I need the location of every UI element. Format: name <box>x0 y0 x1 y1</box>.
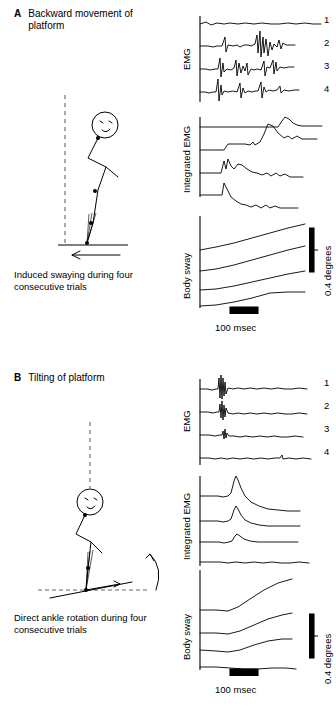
panel-a-body-sway-chart <box>183 212 336 317</box>
panel-b-letter: B <box>14 372 21 384</box>
integrated-emg-trace-3 <box>200 159 303 177</box>
panel-b: B Tilting of platform Direct ankle rotat… <box>0 362 336 724</box>
panel-b-time-scale-label: 100 msec <box>215 684 256 695</box>
panel-a-emg-axis-label: EMG <box>181 48 192 70</box>
panel-b-emg-trace-label-1: 1 <box>324 377 329 388</box>
body-sway-trace-3 <box>200 271 305 290</box>
joint-shoulder <box>83 513 87 517</box>
joint-shoulder <box>96 136 100 140</box>
emg-trace-2 <box>200 31 295 57</box>
panel-a-integrated-emg-axis-label: Integrated EMG <box>181 126 192 193</box>
panel-b-amplitude-scale-label: 0.4 degrees <box>322 634 333 684</box>
emg-trace-1 <box>200 375 307 399</box>
panel-a-emg-trace-label-2: 2 <box>324 37 329 48</box>
body-sway-trace-4 <box>200 292 305 306</box>
panel-a-emg-trace-label-4: 4 <box>324 83 329 94</box>
panel-b-title: Tilting of platform <box>28 372 104 384</box>
panel-a-letter: A <box>14 8 21 20</box>
integrated-emg-trace-4 <box>200 562 309 563</box>
panel-a: A Backward movement of platform Induced … <box>0 0 336 362</box>
emg-trace-2 <box>200 401 307 420</box>
panel-b-diagram <box>10 422 190 612</box>
panel-b-integrated-emg-chart <box>183 474 336 569</box>
joint-hip <box>93 189 97 193</box>
integrated-emg-trace-1 <box>200 476 300 511</box>
integrated-emg-trace-4 <box>200 183 298 208</box>
figure-face <box>100 121 112 132</box>
panel-a-integrated-emg-chart <box>183 115 336 200</box>
panel-a-body-sway-axis-label: Body sway <box>181 253 192 299</box>
integrated-emg-trace-3 <box>200 534 298 543</box>
time-scale-bar <box>230 669 258 676</box>
figure-head <box>77 489 103 515</box>
amplitude-scale-bracket <box>309 228 318 272</box>
panel-b-header: B Tilting of platform <box>14 372 105 384</box>
panel-a-caption: Induced swaying during four consecutive … <box>14 269 154 292</box>
emg-trace-3 <box>200 429 303 439</box>
panel-b-emg-trace-label-4: 4 <box>324 446 329 457</box>
figure-face <box>85 498 97 509</box>
figure-head <box>92 112 118 138</box>
panel-b-emg-trace-label-3: 3 <box>324 423 329 434</box>
panel-b-emg-chart <box>183 377 336 469</box>
panel-a-emg-chart <box>183 14 336 106</box>
panel-b-integrated-emg-axis-label: Integrated EMG <box>181 493 192 560</box>
panel-a-amplitude-scale-label: 0.4 degrees <box>322 246 333 296</box>
integrated-emg-trace-2 <box>200 506 300 526</box>
body-sway-trace-3 <box>200 639 292 652</box>
sway-path-lines <box>86 550 93 590</box>
emg-trace-3 <box>200 58 294 77</box>
sway-path-lines <box>87 213 96 243</box>
panel-b-emg-trace-label-2: 2 <box>324 400 329 411</box>
backward-movement-arrow <box>72 251 120 259</box>
time-scale-bar <box>230 307 258 314</box>
panel-a-time-scale-label: 100 msec <box>215 322 256 333</box>
panel-a-emg-trace-label-3: 3 <box>324 60 329 71</box>
integrated-emg-trace-1 <box>200 117 322 127</box>
panel-b-caption: Direct ankle rotation during four consec… <box>14 612 154 635</box>
amplitude-scale-bracket <box>309 614 318 658</box>
body-sway-trace-2 <box>200 613 292 634</box>
emg-trace-1 <box>200 22 321 25</box>
panel-b-body-sway-chart <box>183 570 336 680</box>
ankle-rotation-arrow <box>146 554 159 590</box>
emg-trace-4 <box>200 455 311 459</box>
figure-arm-lower <box>106 167 118 177</box>
panel-a-header: A Backward movement of platform <box>14 8 153 32</box>
panel-a-title: Backward movement of platform <box>28 8 153 32</box>
body-sway-trace-1 <box>200 579 292 611</box>
panel-b-body-sway-axis-label: Body sway <box>181 614 192 660</box>
body-sway-trace-2 <box>200 246 305 271</box>
integrated-emg-trace-2 <box>200 124 317 150</box>
body-sway-trace-1 <box>200 224 305 250</box>
panel-b-emg-axis-label: EMG <box>181 410 192 432</box>
emg-trace-4 <box>200 79 299 101</box>
figure-body <box>76 515 91 590</box>
panel-a-diagram <box>10 95 180 265</box>
panel-a-emg-trace-label-1: 1 <box>324 14 329 25</box>
